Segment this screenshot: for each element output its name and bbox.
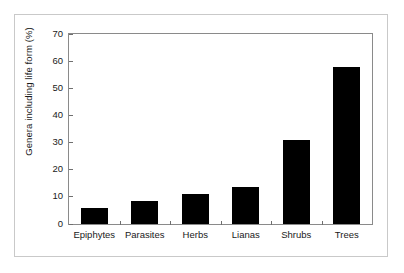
y-axis-tick-label: 40: [52, 109, 63, 120]
y-axis-tick-mark: [69, 61, 73, 62]
y-axis-title: Genera including life form (%): [23, 2, 34, 182]
y-axis-tick-mark: [69, 115, 73, 116]
y-axis-tick-label: 50: [52, 82, 63, 93]
bar: [232, 187, 259, 224]
y-axis-tick-mark: [69, 224, 73, 225]
y-axis-tick-mark: [69, 196, 73, 197]
x-axis-tick-label: Trees: [322, 229, 373, 240]
y-axis-tick-label: 30: [52, 136, 63, 147]
x-axis-tick-label: Epiphytes: [69, 229, 120, 240]
y-axis-tick-label: 70: [52, 28, 63, 39]
x-axis-tick-label: Parasites: [120, 229, 171, 240]
x-axis-tick-label: Shrubs: [271, 229, 322, 240]
y-axis-tick-mark: [69, 34, 73, 35]
y-axis-tick-label: 60: [52, 55, 63, 66]
bar: [182, 194, 209, 224]
bar: [81, 208, 108, 224]
y-axis-tick-label: 20: [52, 163, 63, 174]
x-axis-tick-mark: [170, 221, 171, 225]
x-axis-tick-mark: [271, 221, 272, 225]
bar: [283, 140, 310, 224]
y-axis-tick-label: 0: [58, 218, 63, 229]
bar: [333, 67, 360, 224]
y-axis-tick-mark: [69, 142, 73, 143]
plot-area: 010203040506070: [69, 34, 372, 224]
figure: Genera including life form (%) 010203040…: [0, 0, 404, 273]
bar: [131, 201, 158, 224]
y-axis-tick-mark: [69, 88, 73, 89]
y-axis-tick-mark: [69, 169, 73, 170]
x-axis-tick-label: Lianas: [221, 229, 272, 240]
x-axis-tick-label: Herbs: [170, 229, 221, 240]
x-axis-tick-mark: [221, 221, 222, 225]
y-axis-tick-label: 10: [52, 190, 63, 201]
x-axis-tick-mark: [322, 221, 323, 225]
x-axis-tick-mark: [120, 221, 121, 225]
plot-frame: 010203040506070: [68, 33, 373, 225]
